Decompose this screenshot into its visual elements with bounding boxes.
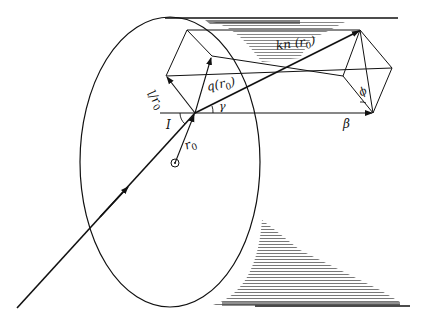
label-angle-gamma: γ: [219, 101, 226, 112]
label-kn-text: kn: [275, 37, 292, 53]
label-beta: β: [343, 118, 350, 130]
label-beta-text: β: [343, 117, 350, 131]
fiber-cross-section: [80, 17, 260, 307]
fiber-ray-diagram: [0, 0, 421, 321]
label-gamma-text: γ: [219, 100, 226, 113]
label-angle-I: I: [166, 119, 171, 131]
ray-direction-arrow: [100, 187, 128, 217]
angle-phi-arc: [360, 102, 366, 103]
angle-gamma-arc: [212, 106, 213, 113]
bottom-shading: [213, 220, 400, 306]
label-I-text: I: [166, 118, 171, 132]
top-shading: [200, 20, 345, 62]
l-over-r0-vector: [167, 77, 195, 113]
angle-I-arc: [180, 113, 185, 124]
